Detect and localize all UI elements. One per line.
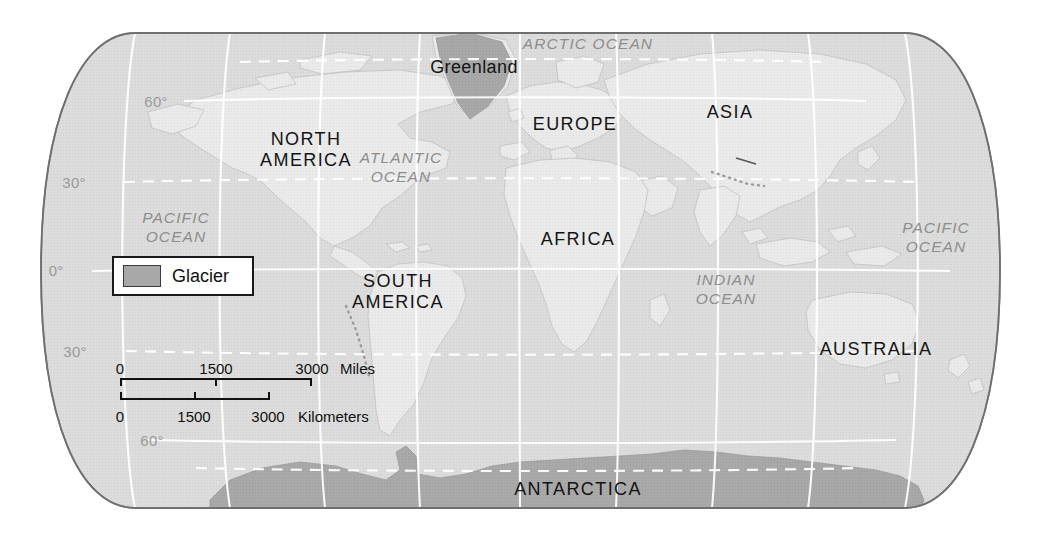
scale-miles: 0 1500 3000 Miles bbox=[112, 360, 362, 377]
scale-km-unit: Kilometers bbox=[298, 408, 369, 425]
scale-miles-tick-1: 1500 bbox=[199, 360, 232, 377]
scale-miles-bar bbox=[120, 378, 312, 386]
scale-miles-tick-2: 3000 bbox=[295, 360, 328, 377]
legend-glacier-label: Glacier bbox=[172, 266, 229, 287]
scale-km-tick-2: 3000 bbox=[251, 408, 284, 425]
scale-km-tick-0: 0 bbox=[116, 408, 124, 425]
world-map: 60°30°0°30°60° NORTHAMERICASOUTHAMERICAE… bbox=[0, 0, 1041, 541]
scale-kilometers-bar bbox=[120, 392, 270, 400]
scale-km-tick-1: 1500 bbox=[177, 408, 210, 425]
map-legend: Glacier bbox=[112, 256, 254, 296]
scale-miles-tick-0: 0 bbox=[116, 360, 124, 377]
scale-miles-unit: Miles bbox=[340, 360, 375, 377]
map-scale: 0 1500 3000 Miles 0 1500 30 bbox=[112, 360, 362, 420]
glacier-swatch-icon bbox=[123, 265, 161, 287]
